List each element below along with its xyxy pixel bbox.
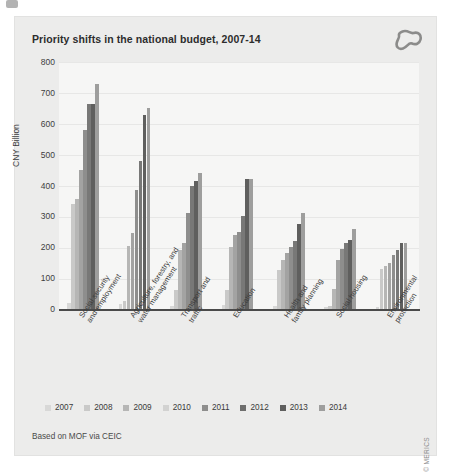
bar-group (376, 62, 408, 309)
legend-label: 2010 (173, 403, 191, 412)
merics-logo (395, 28, 423, 54)
y-tick-label: 400 (21, 181, 55, 191)
bar-group (273, 62, 305, 309)
legend-item[interactable]: 2011 (202, 403, 230, 412)
legend-item[interactable]: 2008 (84, 403, 112, 412)
y-tick-label: 200 (21, 242, 55, 252)
legend-label: 2014 (329, 403, 347, 412)
y-tick-label: 800 (21, 57, 55, 67)
source-note: Based on MOF via CEIC (32, 432, 122, 441)
bar (95, 84, 99, 309)
legend-swatch (280, 405, 286, 411)
legend-swatch (84, 405, 90, 411)
y-tick-label: 300 (21, 211, 55, 221)
bar-group (67, 62, 99, 309)
copyright-mark: © MERICS (423, 437, 430, 472)
legend-item[interactable]: 2007 (45, 403, 73, 412)
y-tick-label: 0 (21, 304, 55, 314)
y-tick-label: 100 (21, 273, 55, 283)
bar-group (222, 62, 254, 309)
legend-item[interactable]: 2012 (240, 403, 268, 412)
legend-swatch (202, 405, 208, 411)
legend-label: 2013 (290, 403, 308, 412)
legend-item[interactable]: 2010 (163, 403, 191, 412)
legend-label: 2007 (55, 403, 73, 412)
legend-swatch (240, 405, 246, 411)
bar-group (119, 62, 151, 309)
legend-label: 2009 (133, 403, 151, 412)
page-corner-mark (6, 0, 18, 8)
chart-legend: 20072008200920102011201220132014 (45, 403, 435, 412)
legend-swatch (163, 405, 169, 411)
chart-title: Priority shifts in the national budget, … (32, 33, 261, 45)
legend-label: 2011 (212, 403, 230, 412)
legend-item[interactable]: 2013 (280, 403, 308, 412)
legend-item[interactable]: 2009 (123, 403, 151, 412)
legend-label: 2012 (250, 403, 268, 412)
chart-figure: Priority shifts in the national budget, … (14, 16, 437, 456)
y-tick-label: 700 (21, 88, 55, 98)
legend-swatch (45, 405, 51, 411)
y-tick-label: 600 (21, 119, 55, 129)
legend-item[interactable]: 2014 (319, 403, 347, 412)
legend-label: 2008 (94, 403, 112, 412)
bar-group (324, 62, 356, 309)
legend-swatch (123, 405, 129, 411)
legend-swatch (319, 405, 325, 411)
y-tick-label: 500 (21, 150, 55, 160)
y-axis-title: CNY Billion (11, 124, 21, 167)
